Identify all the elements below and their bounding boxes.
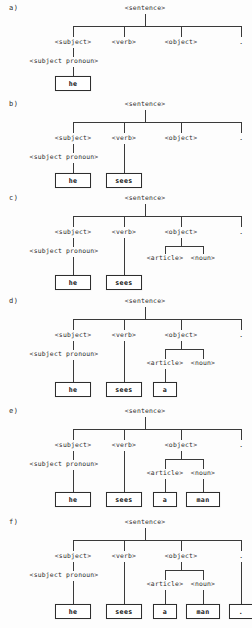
terminal-box-period: . bbox=[229, 604, 252, 619]
edge-to-article bbox=[165, 349, 166, 359]
edge-object-stem bbox=[181, 562, 182, 570]
edge-verb-to-sees bbox=[124, 144, 125, 173]
edge-object-stem bbox=[181, 238, 182, 246]
terminal-box-he: he bbox=[55, 76, 91, 91]
edge-to-noun bbox=[203, 349, 204, 359]
panel-b: b) <sentence> <subject> <verb> <object> … bbox=[0, 95, 252, 192]
terminal-box-a: a bbox=[153, 382, 177, 397]
edge-verb-to-sees bbox=[124, 238, 125, 275]
edge-root-stem bbox=[145, 417, 146, 429]
edge-object-stem bbox=[181, 451, 182, 459]
edge-object-bar bbox=[165, 349, 203, 350]
panel-c: c) <sentence> <subject> <verb> <object> … bbox=[0, 192, 252, 295]
node-subject: <subject> bbox=[55, 134, 91, 142]
terminal-box-a: a bbox=[153, 604, 177, 619]
edge-to-subject bbox=[73, 122, 74, 133]
edge-article-to-a bbox=[165, 590, 166, 604]
node-noun: <noun> bbox=[191, 254, 215, 262]
edge-to-subject bbox=[73, 319, 74, 330]
edge-to-object bbox=[181, 122, 182, 133]
edge-root-stem bbox=[145, 14, 146, 26]
edge-root-bar bbox=[73, 26, 241, 27]
node-period: . bbox=[239, 134, 243, 142]
node-subject-pronoun: <subject pronoun> bbox=[30, 247, 99, 255]
edge-noun-to-man bbox=[203, 590, 204, 604]
edge-subject-to-pronoun bbox=[73, 562, 74, 571]
edge-pronoun-to-he bbox=[73, 163, 74, 173]
node-subject-pronoun: <subject pronoun> bbox=[30, 57, 99, 65]
terminal-box-sees: sees bbox=[106, 492, 142, 507]
edge-article-to-a bbox=[165, 369, 166, 382]
edge-object-bar bbox=[165, 570, 203, 571]
edge-object-bar bbox=[165, 246, 203, 247]
edge-to-subject bbox=[73, 429, 74, 440]
node-subject: <subject> bbox=[55, 228, 91, 236]
edge-to-verb bbox=[124, 26, 125, 37]
node-sentence: <sentence> bbox=[125, 194, 165, 202]
edge-to-article bbox=[165, 570, 166, 580]
node-subject-pronoun: <subject pronoun> bbox=[30, 571, 99, 579]
edge-to-noun bbox=[203, 570, 204, 580]
edge-to-verb bbox=[124, 319, 125, 330]
node-verb: <verb> bbox=[112, 552, 136, 560]
edge-article-to-a bbox=[165, 479, 166, 492]
edge-subject-to-pronoun bbox=[73, 48, 74, 57]
terminal-box-sees: sees bbox=[106, 604, 142, 619]
edge-object-stem bbox=[181, 341, 182, 349]
edge-to-subject bbox=[73, 26, 74, 37]
edge-to-verb bbox=[124, 540, 125, 551]
terminal-box-man: man bbox=[186, 492, 220, 507]
edge-subject-to-pronoun bbox=[73, 451, 74, 460]
node-noun: <noun> bbox=[191, 469, 215, 477]
edge-to-verb bbox=[124, 122, 125, 133]
edge-verb-to-sees bbox=[124, 341, 125, 382]
node-sentence: <sentence> bbox=[125, 297, 165, 305]
edge-object-bar bbox=[165, 459, 203, 460]
edge-to-period bbox=[241, 429, 242, 440]
node-subject: <subject> bbox=[55, 441, 91, 449]
terminal-box-sees: sees bbox=[106, 173, 142, 188]
edge-to-object bbox=[181, 540, 182, 551]
node-object: <object> bbox=[165, 331, 197, 339]
node-sentence: <sentence> bbox=[125, 100, 165, 108]
edge-root-stem bbox=[145, 110, 146, 122]
edge-to-object bbox=[181, 429, 182, 440]
panel-a: a) <sentence> <subject> <verb> <object> … bbox=[0, 0, 252, 95]
node-article: <article> bbox=[147, 359, 183, 367]
terminal-box-sees: sees bbox=[106, 275, 142, 290]
terminal-box-he: he bbox=[55, 382, 91, 397]
panel-d-label: d) bbox=[9, 297, 18, 305]
node-sentence: <sentence> bbox=[125, 518, 165, 526]
edge-to-verb bbox=[124, 429, 125, 440]
node-article: <article> bbox=[147, 580, 183, 588]
panel-e: e) <sentence> <subject> <verb> <object> … bbox=[0, 403, 252, 513]
parse-tree-figure: a) <sentence> <subject> <verb> <object> … bbox=[0, 0, 252, 628]
terminal-box-he: he bbox=[55, 275, 91, 290]
edge-pronoun-to-he bbox=[73, 581, 74, 604]
panel-e-label: e) bbox=[9, 407, 18, 415]
edge-to-period bbox=[241, 26, 242, 37]
edge-subject-to-pronoun bbox=[73, 144, 74, 153]
node-object: <object> bbox=[165, 552, 197, 560]
terminal-box-he: he bbox=[55, 492, 91, 507]
edge-root-bar bbox=[73, 429, 241, 430]
edge-root-stem bbox=[145, 307, 146, 319]
node-object: <object> bbox=[165, 38, 197, 46]
panel-d: d) <sentence> <subject> <verb> <object> … bbox=[0, 295, 252, 403]
node-period: . bbox=[239, 38, 243, 46]
node-object: <object> bbox=[165, 134, 197, 142]
panel-f: f) <sentence> <subject> <verb> <object> … bbox=[0, 513, 252, 628]
node-noun: <noun> bbox=[191, 580, 215, 588]
panel-b-label: b) bbox=[9, 100, 18, 108]
edge-verb-to-sees bbox=[124, 562, 125, 604]
edge-root-bar bbox=[73, 122, 241, 123]
node-sentence: <sentence> bbox=[125, 4, 165, 12]
node-period: . bbox=[239, 331, 243, 339]
terminal-box-he: he bbox=[55, 604, 91, 619]
edge-to-object bbox=[181, 319, 182, 330]
node-verb: <verb> bbox=[112, 331, 136, 339]
edge-to-article bbox=[165, 246, 166, 254]
edge-noun-to-man bbox=[203, 479, 204, 492]
node-period: . bbox=[239, 441, 243, 449]
edge-pronoun-to-he bbox=[73, 257, 74, 275]
